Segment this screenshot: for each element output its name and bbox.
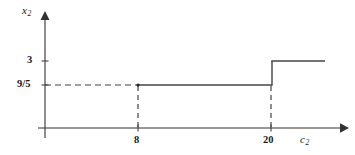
y-tick-label-9-5: 9/5 [17,79,30,90]
y-axis-arrowhead [41,11,50,20]
plot-canvas [0,0,355,155]
x-axis [38,123,349,132]
y-axis [41,11,50,138]
x-axis-arrowhead [340,123,349,132]
marker-point-8 [136,83,139,86]
step-function-curve [136,61,325,87]
step-function-figure: x2 c2 3 9/5 8 20 [0,0,355,155]
x-tick-label-20: 20 [263,135,274,146]
y-axis-label-subscript: 2 [27,9,31,18]
x-axis-label: c2 [300,134,309,145]
y-tick-label-3: 3 [27,55,32,66]
y-axis-label: x2 [22,5,31,16]
x-tick-label-8: 8 [134,135,139,146]
x-axis-label-subscript: 2 [305,138,309,147]
